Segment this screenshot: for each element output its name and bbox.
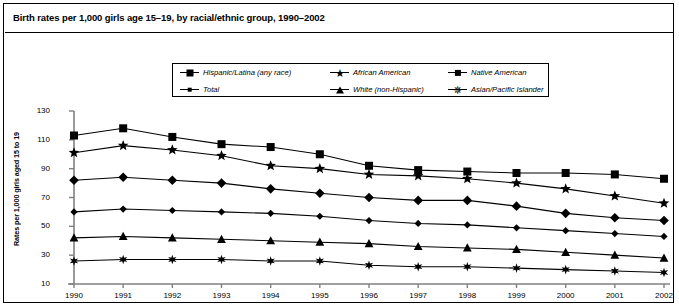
data-point-marker	[316, 213, 323, 220]
data-point-marker	[511, 177, 522, 187]
chart-canvas	[4, 4, 675, 304]
data-point-marker	[560, 183, 571, 193]
series-asian-pacific-islander	[70, 255, 668, 278]
data-point-marker	[611, 170, 619, 178]
data-point-marker	[169, 207, 176, 214]
data-point-marker	[660, 233, 667, 240]
data-point-marker	[218, 140, 226, 148]
data-point-marker	[364, 169, 375, 179]
data-point-marker	[463, 196, 473, 206]
series-white-non-hispanic	[70, 232, 669, 262]
data-point-marker	[118, 173, 128, 183]
data-point-marker	[118, 140, 129, 150]
data-point-marker	[266, 184, 276, 194]
data-point-marker	[561, 209, 571, 219]
data-point-marker	[267, 143, 275, 151]
data-point-marker	[464, 221, 471, 228]
data-point-marker	[216, 150, 227, 160]
data-point-marker	[168, 133, 176, 141]
data-point-marker	[512, 201, 522, 211]
data-point-marker	[315, 163, 326, 173]
data-point-marker	[610, 190, 621, 200]
data-point-marker	[267, 210, 274, 217]
data-point-marker	[660, 175, 668, 183]
data-point-marker	[365, 162, 373, 170]
data-point-marker	[168, 175, 178, 185]
data-point-marker	[265, 160, 276, 170]
data-point-marker	[611, 230, 618, 237]
data-point-marker	[167, 144, 178, 154]
data-point-marker	[415, 220, 422, 227]
chart-frame: Birth rates per 1,000 girls age 15–19, b…	[3, 3, 674, 303]
data-point-marker	[562, 169, 570, 177]
data-point-marker	[365, 217, 372, 224]
plot-area: Rates per 1,000 girls aged 15 to 19 1030…	[4, 4, 675, 304]
data-point-marker	[513, 224, 520, 231]
data-point-marker	[120, 205, 127, 212]
series-total	[70, 205, 667, 240]
data-point-marker	[659, 216, 669, 226]
data-point-marker	[316, 150, 324, 158]
data-point-marker	[218, 208, 225, 215]
data-point-marker	[610, 213, 620, 223]
data-point-marker	[119, 124, 127, 132]
data-point-marker	[364, 193, 374, 203]
data-point-marker	[119, 232, 128, 240]
data-point-marker	[315, 188, 325, 198]
data-point-marker	[70, 208, 77, 215]
data-point-marker	[69, 175, 79, 185]
data-point-marker	[562, 227, 569, 234]
data-point-marker	[217, 178, 227, 188]
data-point-marker	[70, 132, 78, 140]
data-point-marker	[413, 196, 423, 206]
data-point-marker	[659, 198, 670, 208]
data-point-marker	[513, 169, 521, 177]
